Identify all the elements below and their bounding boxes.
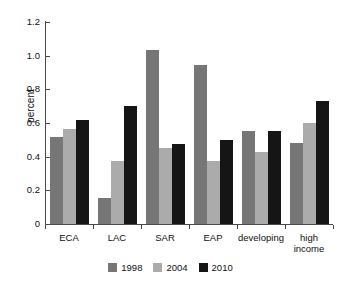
x-axis-label-high-income: highincome [275,232,341,254]
y-tick-mark [45,123,50,124]
bar-LAC-2010 [124,106,137,224]
x-tick-mark [141,225,142,229]
bar-LAC-1998 [98,198,111,224]
x-tick-mark [93,225,94,229]
x-tick-mark [189,225,190,229]
bar-LAC-2004 [111,161,124,224]
y-tick-mark [45,22,50,23]
legend-swatch-icon [153,263,162,272]
y-tick-label: 0.2 [0,185,40,195]
x-axis-label-line: high [275,232,341,243]
bar-EAP-2010 [220,140,233,224]
x-axis-label-line: income [275,243,341,254]
bar-SAR-1998 [146,50,159,224]
legend-item-1998[interactable]: 1998 [108,263,142,273]
bar-developing-2004 [255,152,268,224]
legend-label: 2010 [212,263,233,273]
y-axis-title: percent [25,71,36,141]
bar-high-income-1998 [290,143,303,224]
y-tick-label: 0.6 [0,118,40,128]
bar-EAP-1998 [194,65,207,224]
y-tick-label: 1.0 [0,51,40,61]
y-tick-label: 0.8 [0,84,40,94]
bar-ECA-2010 [76,120,89,224]
y-tick-mark [45,89,50,90]
bar-ECA-1998 [50,137,63,224]
bar-high-income-2004 [303,123,316,224]
bar-EAP-2004 [207,161,220,224]
x-tick-mark [285,225,286,229]
y-tick-label: 1.2 [0,17,40,27]
bar-ECA-2004 [63,129,76,224]
y-tick-mark [45,56,50,57]
x-tick-mark [237,225,238,229]
x-tick-mark [333,225,334,229]
legend-item-2004[interactable]: 2004 [153,263,187,273]
legend-swatch-icon [199,263,208,272]
legend-label: 1998 [121,263,142,273]
legend-item-2010[interactable]: 2010 [199,263,233,273]
y-tick-label: 0 [0,219,40,229]
bar-developing-1998 [242,131,255,224]
legend-swatch-icon [108,263,117,272]
bar-chart: percent 00.20.40.60.81.01.2 ECALACSAREAP… [0,0,341,287]
x-tick-mark [45,225,46,229]
y-tick-label: 0.4 [0,152,40,162]
bar-SAR-2010 [172,144,185,224]
chart-legend: 199820042010 [0,263,341,273]
legend-label: 2004 [166,263,187,273]
bar-SAR-2004 [159,148,172,224]
bar-developing-2010 [268,131,281,224]
bar-high-income-2010 [316,101,329,224]
